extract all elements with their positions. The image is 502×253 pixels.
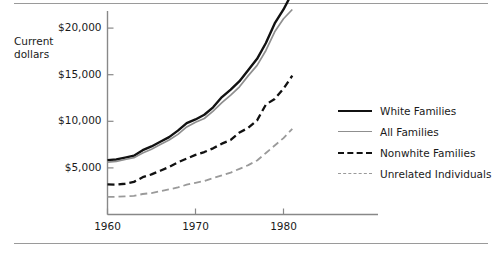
series-line: [108, 9, 293, 162]
series-line: [108, 76, 293, 185]
series-line: [108, 0, 293, 160]
figure-container: Current dollars White FamiliesAll Famili…: [0, 0, 502, 253]
legend-item-label: All Families: [380, 126, 439, 138]
legend-swatch-icon: [338, 127, 372, 137]
x-axis-tick-label: 1970: [174, 220, 218, 232]
y-axis-tick-label: $10,000: [46, 114, 102, 126]
x-axis-tick-label: 1960: [86, 220, 130, 232]
y-axis-tick-label: $20,000: [46, 21, 102, 33]
legend-item-label: Unrelated Individuals: [380, 168, 491, 180]
x-axis-tick-label: 1980: [262, 220, 306, 232]
legend-item-label: White Families: [380, 105, 456, 117]
y-axis-tick-label: $5,000: [46, 161, 102, 173]
legend-item[interactable]: Nonwhite Families: [338, 142, 500, 163]
legend-item-label: Nonwhite Families: [380, 147, 475, 159]
legend-item[interactable]: All Families: [338, 121, 500, 142]
y-axis-tick-label: $15,000: [46, 68, 102, 80]
legend-swatch-icon: [338, 169, 372, 179]
legend-swatch-icon: [338, 148, 372, 158]
series-line: [108, 129, 293, 197]
legend-swatch-icon: [338, 106, 372, 116]
chart-legend: White FamiliesAll FamiliesNonwhite Famil…: [338, 100, 500, 184]
legend-item[interactable]: Unrelated Individuals: [338, 163, 500, 184]
legend-item[interactable]: White Families: [338, 100, 500, 121]
